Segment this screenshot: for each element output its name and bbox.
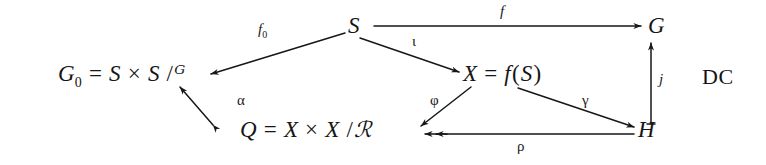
node-G: G (648, 14, 665, 37)
diagram-corner-tag-text: DC (702, 64, 734, 89)
node-Q-base: Q (240, 117, 257, 142)
arrow-label-alpha: α (237, 93, 245, 108)
node-S: S (348, 14, 360, 37)
node-G0-subscript: 0 (75, 75, 82, 90)
arrow-label-alpha-text: α (237, 92, 245, 108)
arrow-iota (360, 38, 459, 72)
node-X: X = f(S) (463, 62, 542, 85)
node-X-paren-close: ) (532, 61, 542, 86)
arrow-label-rho: ρ (517, 139, 525, 154)
arrow-label-gamma: γ (582, 93, 589, 108)
arrow-label-j: j (659, 72, 663, 87)
arrow-label-f0-subscript: 0 (262, 29, 267, 40)
arrow-label-gamma-text: γ (582, 92, 589, 108)
node-G0-factor-b: S (148, 61, 160, 86)
diagram-corner-tag: DC (702, 66, 734, 88)
node-G0-base: G (58, 61, 75, 86)
arrow-label-f0: f0 (258, 22, 267, 40)
arrow-label-rho-text: ρ (517, 138, 525, 154)
arrow-label-phi-text: φ (430, 92, 439, 108)
arrow-gamma (518, 88, 634, 127)
node-G0-factor-a: S (109, 61, 121, 86)
arrow-label-f-text: f (500, 3, 504, 19)
node-Q-quotient-relation: ℛ (354, 117, 372, 142)
arrow-alpha (180, 87, 213, 125)
node-X-base: X (463, 61, 477, 86)
node-X-equals: = (483, 61, 498, 86)
arrow-label-iota: ι (412, 34, 416, 49)
node-H: H (638, 118, 655, 141)
node-X-function: f (504, 61, 511, 86)
node-X-paren-open: ( (511, 61, 521, 86)
arrow-label-f: f (500, 4, 504, 19)
node-Q-times: × (304, 117, 319, 142)
node-G0-quotient-group: ᴳ (174, 61, 185, 86)
arrow-label-phi: φ (430, 93, 439, 108)
node-G0-equals: = (88, 61, 103, 86)
node-S-label: S (348, 13, 360, 38)
node-H-label: H (638, 117, 655, 142)
node-G0-slash: / (166, 61, 175, 86)
node-Q: Q = X × X /ℛ (240, 118, 372, 141)
node-Q-slash: / (345, 117, 354, 142)
node-X-argument: S (521, 61, 533, 86)
node-Q-equals: = (263, 117, 278, 142)
arrow-label-iota-text: ι (412, 33, 416, 49)
arrow-f0 (211, 33, 345, 74)
node-Q-factor-b: X (325, 117, 339, 142)
arrow-phi (421, 87, 471, 126)
node-G0-times: × (127, 61, 142, 86)
node-Q-factor-a: X (284, 117, 298, 142)
node-G-label: G (648, 13, 665, 38)
node-G0: G0 = S × S /ᴳ (58, 62, 185, 90)
diagram-canvas: S G G0 = S × S /ᴳ X = f(S) Q = X × X /ℛ … (0, 0, 766, 165)
arrow-label-j-text: j (659, 71, 663, 87)
